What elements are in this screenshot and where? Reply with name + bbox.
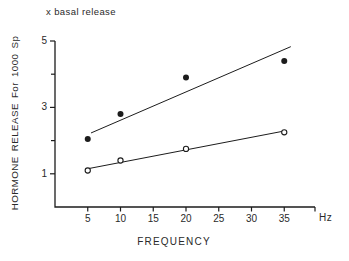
- filled-circle-series-point: [281, 58, 287, 64]
- x-tick-label: 15: [148, 213, 160, 224]
- open-circle-series-point: [118, 158, 123, 163]
- filled-circle-series-fit-line: [91, 47, 291, 133]
- x-tick-label: 35: [279, 213, 291, 224]
- scatter-plot-figure: x basal release HORMONE RELEASE For 1000…: [0, 0, 349, 261]
- filled-circle-series-point: [85, 136, 91, 142]
- filled-circle-series-point: [183, 75, 189, 81]
- filled-circle-series-point: [118, 111, 124, 117]
- x-tick-label: 10: [115, 213, 127, 224]
- x-axis-unit-label: Hz: [319, 212, 332, 223]
- open-circle-series-point: [282, 130, 287, 135]
- open-circle-series-point: [85, 168, 90, 173]
- axes: [55, 41, 315, 207]
- x-tick-label: 5: [85, 213, 91, 224]
- y-tick-label: 3: [41, 101, 47, 112]
- open-circle-series-point: [183, 146, 188, 151]
- x-axis-label: FREQUENCY: [121, 236, 227, 247]
- y-tick-label: 5: [41, 35, 47, 46]
- x-tick-label: 20: [180, 213, 192, 224]
- x-tick-label: 30: [246, 213, 258, 224]
- y-tick-label: 1: [41, 168, 47, 179]
- chart-canvas: 5101520253035135: [0, 0, 349, 261]
- x-tick-label: 25: [213, 213, 225, 224]
